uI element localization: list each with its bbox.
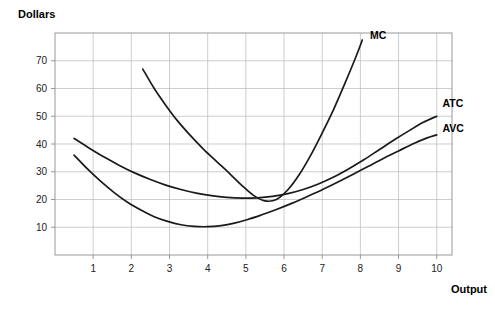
y-tick-label-20: 20	[36, 194, 48, 205]
x-tick-label-8: 8	[358, 263, 364, 274]
x-tick-label-4: 4	[205, 263, 211, 274]
gridlines-horizontal	[55, 61, 452, 228]
x-axis-title: Output	[451, 283, 487, 295]
x-tick-label-2: 2	[129, 263, 135, 274]
x-tick-label-3: 3	[167, 263, 173, 274]
y-axis-tick-labels: 10203040506070	[36, 55, 48, 233]
x-tick-label-7: 7	[319, 263, 325, 274]
x-tick-label-1: 1	[90, 263, 96, 274]
y-tick-label-70: 70	[36, 55, 48, 66]
y-tick-label-50: 50	[36, 111, 48, 122]
x-axis-tick-labels: 12345678910	[90, 263, 442, 274]
y-tick-label-40: 40	[36, 139, 48, 150]
cost-curves-chart: 10203040506070 12345678910 MCATCAVC Doll…	[0, 0, 495, 310]
x-tick-label-6: 6	[281, 263, 287, 274]
curve-mc	[143, 40, 362, 201]
curve-atc	[74, 116, 437, 198]
curve-labels: MCATCAVC	[370, 29, 464, 134]
curve-label-atc: ATC	[442, 97, 463, 109]
y-tick-label-10: 10	[36, 222, 48, 233]
curve-label-mc: MC	[370, 29, 387, 41]
x-tick-label-5: 5	[243, 263, 249, 274]
curves	[74, 40, 437, 227]
y-axis-title: Dollars	[18, 8, 55, 20]
chart-canvas: 10203040506070 12345678910 MCATCAVC Doll…	[0, 0, 495, 310]
curve-label-avc: AVC	[442, 122, 464, 134]
x-tick-label-10: 10	[431, 263, 443, 274]
y-tick-label-30: 30	[36, 166, 48, 177]
x-tick-label-9: 9	[396, 263, 402, 274]
y-tick-label-60: 60	[36, 83, 48, 94]
